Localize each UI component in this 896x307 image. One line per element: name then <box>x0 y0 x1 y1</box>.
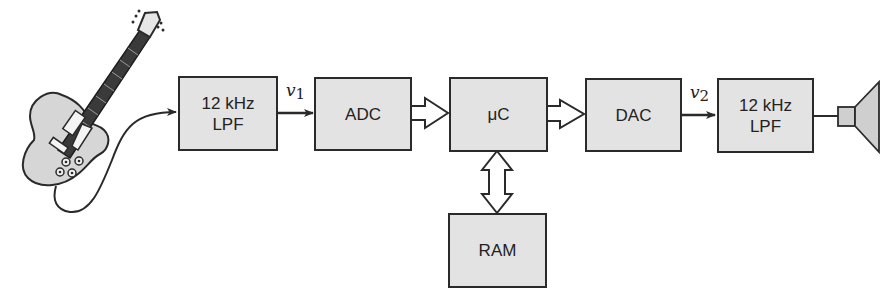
ram-label: RAM <box>479 240 517 261</box>
lpf-output-label: LPF <box>750 116 781 137</box>
signal-label-v2: v2 <box>690 82 709 105</box>
speaker-icon <box>838 82 879 152</box>
microcontroller-block: μC <box>449 77 548 152</box>
lpf-input-block: 12 kHz LPF <box>178 76 278 151</box>
ram-block: RAM <box>448 213 547 288</box>
guitar-icon <box>23 10 165 186</box>
adc-block: ADC <box>314 77 412 151</box>
dac-label: DAC <box>616 105 652 126</box>
uc-to-dac-bus-arrow <box>547 100 584 128</box>
microcontroller-label: μC <box>487 104 509 125</box>
lpf-output-block: 12 kHz LPF <box>717 78 814 153</box>
dac-block: DAC <box>585 78 682 152</box>
lpf-input-label: LPF <box>212 114 243 135</box>
adc-to-uc-bus-arrow <box>411 98 448 128</box>
uc-ram-bidirectional-bus <box>482 151 512 213</box>
lpf-output-freq: 12 kHz <box>739 95 792 116</box>
lpf-input-freq: 12 kHz <box>202 93 255 114</box>
signal-label-v1: v1 <box>286 80 305 103</box>
adc-label: ADC <box>345 104 381 125</box>
